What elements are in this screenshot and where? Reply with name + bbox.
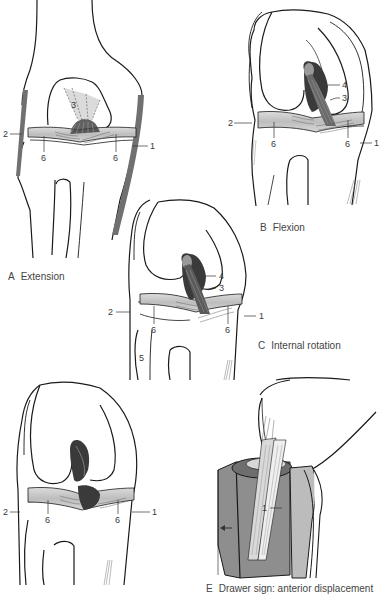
panel-c-caption: CInternal rotation: [258, 341, 341, 351]
panel-b-collateral-fibres: [252, 140, 360, 204]
panel-b-label-4: 4: [342, 81, 347, 90]
panel-c-label-6-medial: 6: [225, 326, 230, 335]
panel-e-caption: EDrawer sign: anterior displacement: [206, 584, 373, 594]
panel-b-label-2: 2: [228, 119, 233, 128]
panel-e-letter: E: [206, 583, 213, 594]
panel-b-label-1: 1: [374, 139, 379, 148]
panel-d-label-6-medial: 6: [115, 516, 120, 525]
panel-a-label-6-medial: 6: [113, 154, 118, 163]
panel-c-label-3: 3: [219, 284, 224, 293]
panel-c-collateral-fibres: [224, 360, 232, 380]
panel-a-cruciate-ligament: [64, 88, 100, 134]
panel-d-label-2: 2: [3, 508, 8, 517]
panel-a-label-6-lateral: 6: [41, 154, 46, 163]
panel-d-collateral-fibres: [104, 560, 112, 585]
panel-c-label-5: 5: [139, 354, 144, 363]
panel-b-letter: B: [260, 222, 267, 233]
panel-c-label-4: 4: [219, 272, 224, 281]
panel-a-label-1: 1: [150, 142, 155, 151]
panel-e-title: Drawer sign: anterior displacement: [219, 583, 374, 594]
panel-b-caption: BFlexion: [260, 223, 305, 233]
panel-b-title: Flexion: [273, 222, 305, 233]
panel-c-label-2: 2: [108, 308, 113, 317]
panel-b-label-6-lateral: 6: [271, 140, 276, 149]
panel-a-label-2: 2: [3, 130, 8, 139]
panel-a-lateral-collateral-ligament: [16, 90, 28, 176]
panel-d-label-1: 1: [152, 508, 157, 517]
panel-e-drawer-sign-drawing: [218, 378, 376, 578]
panel-b-cruciate-ligaments: [303, 61, 336, 126]
panel-c-label-1: 1: [259, 312, 264, 321]
panel-a-caption: AExtension: [8, 272, 65, 282]
panel-c-letter: C: [258, 340, 265, 351]
panel-b-label-3: 3: [342, 94, 347, 103]
panel-a-letter: A: [8, 271, 15, 282]
panel-e-label-1: 1: [262, 504, 267, 513]
panel-a-label-3: 3: [71, 101, 76, 110]
panel-d-label-6-lateral: 6: [45, 516, 50, 525]
panel-b-label-6-medial: 6: [345, 140, 350, 149]
panel-a-title: Extension: [21, 271, 65, 282]
panel-d-drawing: [17, 382, 137, 585]
panel-c-label-6-lateral: 6: [151, 326, 156, 335]
panel-c-title: Internal rotation: [271, 340, 341, 351]
